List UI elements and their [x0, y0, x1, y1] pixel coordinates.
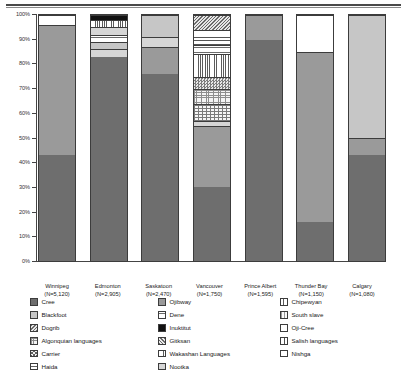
bar-saskatoon[interactable] — [141, 14, 179, 262]
bar-segment[interactable] — [142, 47, 178, 74]
bar-segment[interactable] — [194, 15, 230, 30]
bar-winnipeg[interactable] — [38, 14, 76, 262]
legend-swatch-icon — [158, 337, 166, 345]
bar-segment[interactable] — [246, 40, 282, 261]
x-axis-city-name: Prince Albert — [244, 283, 276, 289]
legend-swatch-icon — [280, 350, 288, 358]
legend-label: Nootka — [170, 363, 189, 370]
legend-item[interactable]: Inuktitut — [158, 322, 280, 334]
bar-vancouver[interactable] — [193, 14, 231, 262]
bar-thunder-bay[interactable] — [296, 14, 334, 262]
y-axis-tick-label: 90% — [19, 36, 30, 42]
y-axis-tick-label: 20% — [19, 209, 30, 215]
legend-label: Carrier — [42, 350, 61, 357]
legend-item[interactable]: Haida — [30, 361, 158, 373]
legend-item[interactable]: Wakashan Languages — [158, 348, 280, 360]
legend-swatch-icon — [158, 350, 166, 358]
legend-label: Dene — [170, 311, 185, 318]
legend-label: Chipewyan — [292, 298, 322, 305]
legend-swatch-icon — [158, 298, 166, 306]
legend-label: Algonquian languages — [42, 337, 102, 344]
y-axis-tick-label: 40% — [19, 159, 30, 165]
bar-segment[interactable] — [194, 30, 230, 45]
chart-plot-area: 100%90%80%70%60%50%40%30%20%10%0% Winnip… — [0, 14, 407, 266]
bar-segment[interactable] — [39, 15, 75, 25]
legend-item[interactable]: Nootka — [158, 361, 280, 373]
bar-segment[interactable] — [91, 57, 127, 261]
legend-swatch-icon — [30, 298, 38, 306]
y-axis-tick-label: 80% — [19, 60, 30, 66]
bar-group — [38, 14, 386, 262]
bar-segment[interactable] — [91, 27, 127, 34]
bar-segment[interactable] — [194, 126, 230, 188]
bar-segment[interactable] — [91, 42, 127, 49]
bar-segment[interactable] — [39, 25, 75, 155]
x-axis-city-name: Edmonton — [95, 283, 121, 289]
bar-calgary[interactable] — [348, 14, 386, 262]
y-axis-tick-label: 10% — [19, 233, 30, 239]
legend-label: Dogrib — [42, 324, 60, 331]
legend-label: Nishga — [292, 350, 311, 357]
bar-prince-albert[interactable] — [245, 14, 283, 262]
bar-segment[interactable] — [246, 15, 282, 40]
bar-segment[interactable] — [142, 74, 178, 261]
y-axis-tick-label: 0% — [22, 258, 30, 264]
bar-segment[interactable] — [91, 35, 127, 42]
legend-swatch-icon — [30, 337, 38, 345]
bar-segment[interactable] — [194, 187, 230, 261]
legend-label: Wakashan Languages — [170, 350, 230, 357]
legend-swatch-icon — [280, 311, 288, 319]
legend-item[interactable]: Oji-Cree — [280, 322, 400, 334]
legend-swatch-icon — [158, 363, 166, 371]
bar-segment[interactable] — [349, 138, 385, 155]
page-top-rule-secondary — [6, 7, 401, 8]
bar-segment[interactable] — [194, 54, 230, 76]
legend-item[interactable]: Ojibway — [158, 296, 280, 308]
x-axis-city-name: Thunder Bay — [295, 283, 328, 289]
legend-column-1: CreeBlackfootDogribAlgonquian languagesC… — [30, 296, 158, 382]
bar-segment[interactable] — [297, 222, 333, 261]
legend-item[interactable]: Algonquian languages — [30, 335, 158, 347]
legend-label: Ojibway — [170, 298, 192, 305]
legend-item[interactable]: Carrier — [30, 348, 158, 360]
bar-segment[interactable] — [349, 155, 385, 261]
bar-segment[interactable] — [91, 15, 127, 20]
legend-item[interactable]: Dogrib — [30, 322, 158, 334]
bar-edmonton[interactable] — [90, 14, 128, 262]
legend-item[interactable]: Salish languages — [280, 335, 400, 347]
bar-segment[interactable] — [349, 15, 385, 138]
legend-swatch-icon — [158, 311, 166, 319]
legend-swatch-icon — [280, 337, 288, 345]
legend-label: Haida — [42, 363, 58, 370]
legend-swatch-icon — [30, 363, 38, 371]
bar-segment[interactable] — [194, 121, 230, 126]
bar-segment[interactable] — [91, 49, 127, 56]
legend-item[interactable]: South slave — [280, 309, 400, 321]
x-axis-city-name: Vancouver — [196, 283, 223, 289]
y-axis: 100%90%80%70%60%50%40%30%20%10%0% — [0, 14, 36, 266]
bar-segment[interactable] — [194, 89, 230, 104]
legend-item[interactable]: Cree — [30, 296, 158, 308]
bar-segment[interactable] — [39, 155, 75, 261]
legend-item[interactable]: Dene — [158, 309, 280, 321]
legend-label: Salish languages — [292, 337, 338, 344]
bar-segment[interactable] — [297, 52, 333, 222]
bar-segment[interactable] — [297, 15, 333, 52]
bar-segment[interactable] — [194, 104, 230, 121]
legend-item[interactable]: Chipewyan — [280, 296, 400, 308]
bar-segment[interactable] — [194, 45, 230, 55]
y-axis-tick-label: 60% — [19, 110, 30, 116]
bar-segment[interactable] — [142, 15, 178, 37]
legend-label: Blackfoot — [42, 311, 67, 318]
legend-item[interactable]: Gitksan — [158, 335, 280, 347]
legend-label: Inuktitut — [170, 324, 191, 331]
y-axis-tick-label: 50% — [19, 135, 30, 141]
page-top-rule — [6, 4, 401, 6]
bar-segment[interactable] — [194, 77, 230, 89]
legend-swatch-icon — [30, 324, 38, 332]
legend-column-2: OjibwayDeneInuktitutGitksanWakashan Lang… — [158, 296, 280, 382]
legend-item[interactable]: Blackfoot — [30, 309, 158, 321]
bar-segment[interactable] — [142, 37, 178, 47]
bar-segment[interactable] — [91, 20, 127, 27]
legend-item[interactable]: Nishga — [280, 348, 400, 360]
